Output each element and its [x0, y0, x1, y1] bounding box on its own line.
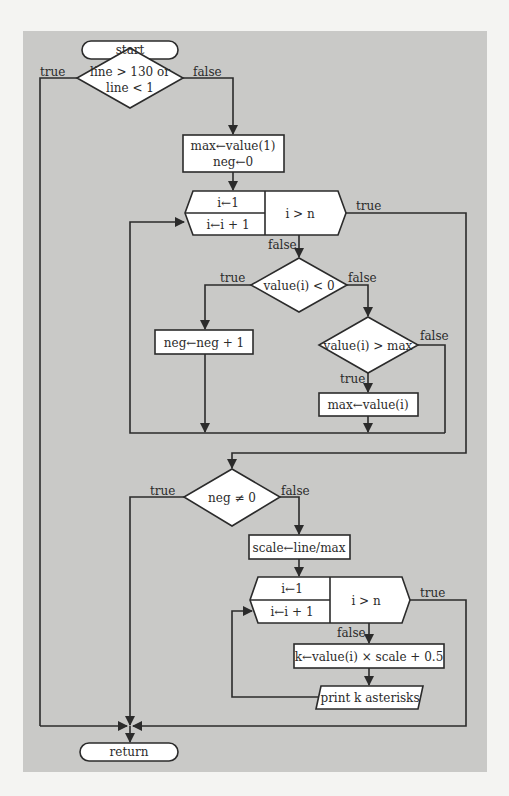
- d2-true-label: true: [220, 272, 245, 284]
- decision-line-text-2: line < 1: [106, 82, 154, 94]
- update-max-text: max←value(i): [327, 399, 408, 411]
- init-text-2: neg←0: [213, 156, 253, 168]
- edge-d3-false: [418, 345, 445, 433]
- d3-true-label: true: [340, 373, 365, 385]
- loop1-init: i←1: [217, 197, 239, 209]
- print-text: print k asterisks: [320, 692, 419, 704]
- loop2-init: i←1: [281, 583, 303, 595]
- flowchart-diagram: [0, 0, 509, 796]
- d2-text: value(i) < 0: [263, 280, 334, 292]
- loop2-false-label: false: [337, 627, 366, 639]
- d1-false-label: false: [193, 66, 222, 78]
- loop1-step: i←i + 1: [206, 219, 249, 231]
- decision-line-text-1: line > 130 or: [90, 66, 170, 78]
- edge-d4-true: [130, 497, 184, 725]
- d4-text: neg ≠ 0: [208, 492, 256, 504]
- d3-text: value(i) > max: [324, 340, 413, 352]
- edge-d2-false: [347, 285, 368, 316]
- edge-d4-false: [280, 497, 299, 534]
- loop1-condition: i > n: [285, 208, 314, 220]
- loop1-true-label: true: [356, 200, 381, 212]
- scale-text: scale←line/max: [253, 542, 346, 554]
- edge-d2-true: [205, 285, 251, 329]
- d4-true-label: true: [150, 485, 175, 497]
- d2-false-label: false: [348, 272, 377, 284]
- d3-false-label: false: [420, 330, 449, 342]
- neg-text: neg←neg + 1: [164, 337, 244, 349]
- loop2-step: i←i + 1: [270, 606, 313, 618]
- d1-true-label: true: [40, 66, 65, 78]
- start-label: start: [116, 44, 145, 56]
- edge-d1-false: [183, 78, 233, 134]
- d4-false-label: false: [281, 485, 310, 497]
- edge-d1-true: [40, 78, 77, 726]
- k-text: k←value(i) × scale + 0.5: [295, 651, 444, 663]
- return-label: return: [110, 746, 149, 758]
- init-text-1: max←value(1): [191, 140, 276, 152]
- loop1-false-label: false: [268, 239, 297, 251]
- loop2-condition: i > n: [351, 595, 380, 607]
- loop2-true-label: true: [420, 587, 445, 599]
